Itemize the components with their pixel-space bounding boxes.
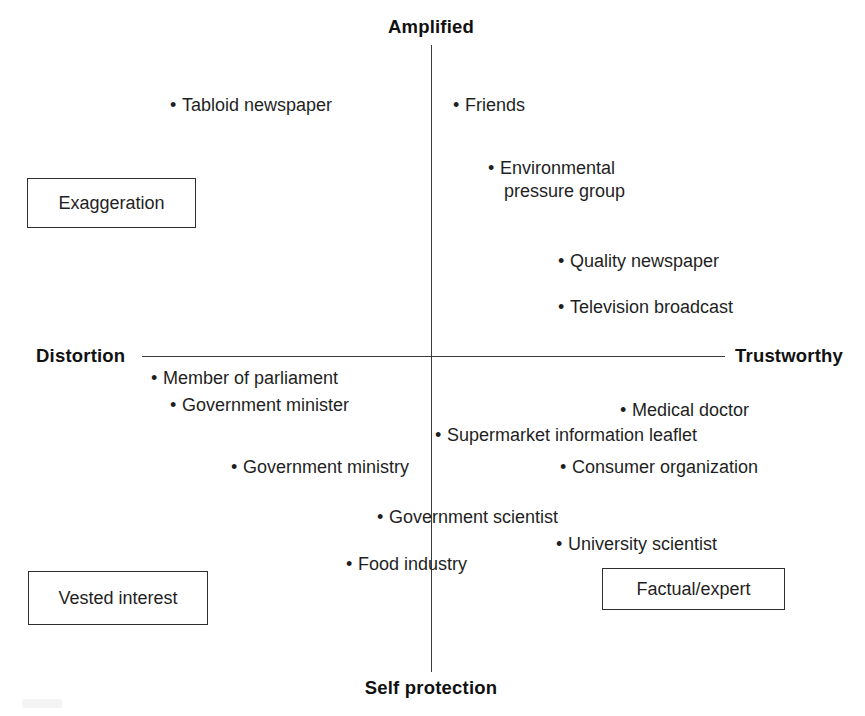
bullet-icon: • xyxy=(170,394,182,417)
map-item-tabloid-newspaper: •Tabloid newspaper xyxy=(170,94,332,117)
map-item-label: Medical doctor xyxy=(632,400,749,420)
bullet-icon: • xyxy=(620,399,632,422)
diagram-canvas: Amplified Self protection Distortion Tru… xyxy=(0,0,865,716)
bullet-icon: • xyxy=(377,506,389,529)
quadrant-box-label: Factual/expert xyxy=(636,579,750,600)
map-item-quality-newspaper: •Quality newspaper xyxy=(558,250,719,273)
map-item-label: Member of parliament xyxy=(163,368,338,388)
quadrant-box-exaggeration: Exaggeration xyxy=(27,178,196,228)
map-item-government-ministry: •Government ministry xyxy=(231,456,409,479)
scan-artifact xyxy=(22,699,62,708)
map-item-label: Consumer organization xyxy=(572,457,758,477)
axis-label-amplified: Amplified xyxy=(388,16,474,38)
map-item-medical-doctor: •Medical doctor xyxy=(620,399,749,422)
map-item-label: Government minister xyxy=(182,395,349,415)
bullet-icon: • xyxy=(556,533,568,556)
axis-label-trustworthy: Trustworthy xyxy=(735,345,843,367)
quadrant-box-label: Exaggeration xyxy=(58,193,164,214)
map-item-member-of-parliament: •Member of parliament xyxy=(151,367,338,390)
map-item-label: Supermarket information leaflet xyxy=(447,425,697,445)
bullet-icon: • xyxy=(231,456,243,479)
quadrant-box-factual-expert: Factual/expert xyxy=(602,568,785,610)
map-item-label: Environmental xyxy=(500,158,615,178)
bullet-icon: • xyxy=(170,94,182,117)
bullet-icon: • xyxy=(558,250,570,273)
bullet-icon: • xyxy=(453,94,465,117)
map-item-environmental-pressure-group: •Environmental pressure group xyxy=(488,157,625,203)
map-item-label: Government ministry xyxy=(243,457,409,477)
map-item-television-broadcast: •Television broadcast xyxy=(558,296,733,319)
quadrant-box-label: Vested interest xyxy=(58,588,177,609)
map-item-label: Television broadcast xyxy=(570,297,733,317)
map-item-supermarket-information-leaflet: •Supermarket information leaflet xyxy=(435,424,697,447)
map-item-friends: •Friends xyxy=(453,94,525,117)
horizontal-axis-line xyxy=(142,356,725,357)
quadrant-box-vested-interest: Vested interest xyxy=(28,571,208,625)
bullet-icon: • xyxy=(435,424,447,447)
axis-label-distortion: Distortion xyxy=(36,345,125,367)
map-item-government-minister: •Government minister xyxy=(170,394,349,417)
map-item-label: Friends xyxy=(465,95,525,115)
map-item-label-line2: pressure group xyxy=(488,180,625,203)
vertical-axis-line xyxy=(431,45,432,672)
bullet-icon: • xyxy=(560,456,572,479)
map-item-label: University scientist xyxy=(568,534,717,554)
bullet-icon: • xyxy=(346,553,358,576)
bullet-icon: • xyxy=(558,296,570,319)
axis-label-self-protection: Self protection xyxy=(365,677,498,699)
map-item-label: Government scientist xyxy=(389,507,558,527)
map-item-consumer-organization: •Consumer organization xyxy=(560,456,758,479)
map-item-government-scientist: •Government scientist xyxy=(377,506,558,529)
map-item-food-industry: •Food industry xyxy=(346,553,467,576)
map-item-label: Food industry xyxy=(358,554,467,574)
bullet-icon: • xyxy=(488,157,500,180)
bullet-icon: • xyxy=(151,367,163,390)
map-item-label: Tabloid newspaper xyxy=(182,95,332,115)
map-item-label: Quality newspaper xyxy=(570,251,719,271)
map-item-university-scientist: •University scientist xyxy=(556,533,717,556)
